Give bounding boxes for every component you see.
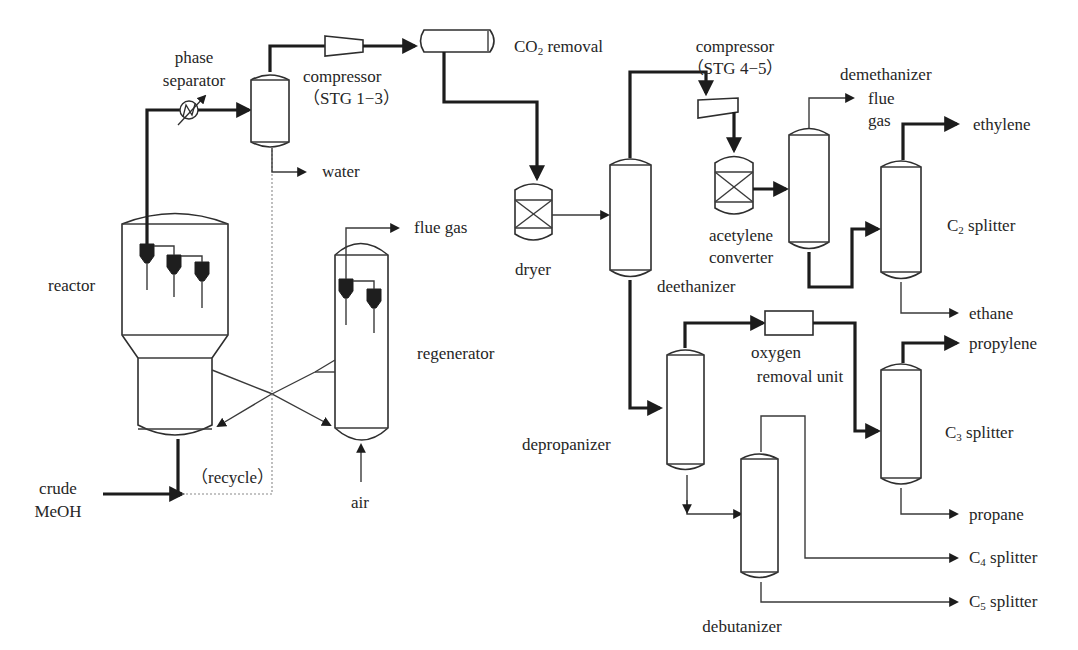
label-acetylene-converter-line1: acetylene	[709, 226, 773, 245]
demethanizer-flue-gas-line	[809, 98, 853, 128]
label-crude-meoh-line2: MeOH	[34, 502, 81, 521]
label-acetylene-converter-line2: converter	[709, 248, 774, 267]
label-debutanizer: debutanizer	[702, 617, 782, 636]
oxygen-removal-unit	[765, 311, 813, 335]
label-regenerator: regenerator	[417, 344, 495, 363]
deethanizer-column	[610, 159, 651, 277]
regenerator-vessel	[335, 244, 388, 441]
label-c2-splitter: C2 splitter	[947, 216, 1016, 236]
label-propane: propane	[969, 505, 1024, 524]
label-reactor: reactor	[48, 276, 96, 295]
depropanizer-bottoms-line	[687, 475, 741, 514]
c2-splitter-column	[881, 161, 921, 279]
c3-splitter-column	[881, 364, 921, 484]
label-demethanizer-flue-line1: flue	[868, 89, 894, 108]
compressor-stg4-5-icon	[698, 98, 738, 118]
label-ethylene: ethylene	[973, 115, 1031, 134]
phase-separator-vessel	[251, 75, 289, 147]
label-ethane: ethane	[969, 304, 1013, 323]
label-phase-separator-line1: phase	[175, 48, 214, 67]
label-deethanizer: deethanizer	[657, 277, 736, 296]
c5-outlet-line	[761, 582, 957, 602]
co2-removal-vessel	[421, 30, 495, 52]
label-crude-meoh-line1: crude	[39, 479, 77, 498]
label-c3-splitter: C3 splitter	[945, 423, 1014, 443]
label-phase-separator-line2: separator	[163, 71, 226, 90]
ethylene-outlet-line	[903, 124, 957, 160]
demethanizer-column	[789, 129, 829, 249]
label-water: water	[322, 162, 360, 181]
label-c4-splitter: C4 splitter	[969, 548, 1038, 568]
label-compressor-2-line1: compressor	[696, 37, 775, 56]
label-c5-splitter: C5 splitter	[969, 592, 1038, 612]
process-flow-diagram: phase separator compressor （STG 1−3） CO2…	[0, 0, 1078, 650]
dryer-vessel	[515, 184, 552, 240]
label-co2-removal: CO2 removal	[514, 37, 603, 57]
label-dryer: dryer	[515, 260, 551, 279]
reactor-vessel	[122, 214, 228, 436]
ethane-outlet-line	[901, 282, 957, 313]
propylene-outlet-line	[903, 343, 957, 363]
label-flue-gas: flue gas	[414, 218, 467, 237]
c4-outlet-line	[761, 416, 957, 558]
co2-to-dryer-line	[444, 52, 537, 178]
deethanizer-overhead-line	[630, 72, 706, 158]
depropanizer-column	[667, 350, 704, 470]
water-outlet-line	[272, 148, 305, 172]
label-compressor-2-line2: （STG 4−5）	[687, 59, 784, 78]
spent-catalyst-line	[212, 370, 330, 425]
compressor-stg1-3-icon	[325, 36, 363, 56]
label-demethanizer: demethanizer	[840, 65, 932, 84]
regenerated-catalyst-line	[218, 360, 335, 426]
label-recycle: （recycle）	[191, 468, 274, 487]
acetylene-converter-vessel	[715, 157, 753, 215]
label-demethanizer-flue-line2: gas	[868, 111, 891, 130]
label-compressor-1-line1: compressor	[303, 67, 382, 86]
label-air: air	[351, 493, 369, 512]
label-oxygen-removal-line1: oxygen	[751, 343, 802, 362]
label-depropanizer: depropanizer	[522, 435, 611, 454]
label-compressor-1-line2: （STG 1−3）	[303, 89, 400, 108]
deethanizer-bottoms-line	[630, 280, 660, 408]
label-propylene: propylene	[969, 334, 1037, 353]
debutanizer-column	[741, 454, 778, 578]
propane-outlet-line	[901, 488, 957, 514]
label-oxygen-removal-line2: removal unit	[757, 367, 844, 386]
